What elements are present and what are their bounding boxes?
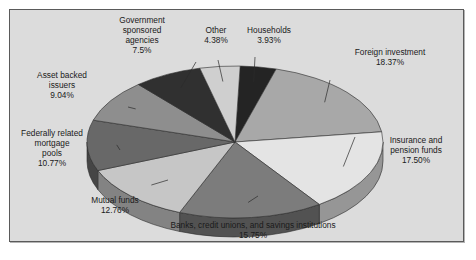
pie-chart-svg: Households3.93%Foreign investment18.37%I… (0, 0, 476, 260)
slice-label: Federally relatedmortgagepools10.77% (21, 128, 83, 168)
slice-label: Insurance andpension funds17.50% (390, 135, 443, 165)
pie-chart-figure: Households3.93%Foreign investment18.37%I… (0, 0, 476, 260)
slice-label: Foreign investment18.37% (355, 47, 426, 67)
slice-label: Other4.38% (204, 25, 228, 45)
slice-label: Governmentsponsoredagencies7.5% (119, 15, 165, 55)
slice-label: Households3.93% (247, 25, 291, 45)
slice-label: Asset backedissuers9.04% (37, 70, 87, 100)
